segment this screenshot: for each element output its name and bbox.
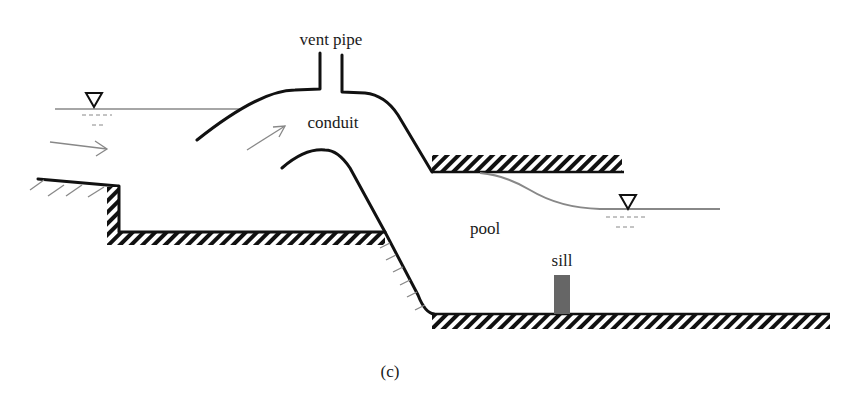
upstream-floor-hatch (107, 232, 385, 245)
water-level-triangle-icon (86, 93, 102, 107)
upstream-water-surface (55, 93, 242, 125)
vent-pipe-label: vent pipe (300, 30, 363, 49)
flow-arrow-conduit-icon (247, 126, 285, 150)
pool-label: pool (470, 219, 501, 238)
conduit-upper-wall-left (197, 53, 320, 140)
figure-caption: (c) (381, 362, 400, 381)
sill-label: sill (552, 251, 573, 270)
hydraulic-conduit-diagram: vent pipe conduit pool sill (c) (0, 0, 859, 404)
conduit-label: conduit (308, 113, 359, 132)
outlet-roof-hatch (432, 155, 622, 171)
downstream-floor-hatch (432, 315, 830, 329)
water-level-triangle-icon (620, 195, 636, 209)
flow-arrow-icon (50, 141, 107, 156)
downstream-water-surface (480, 173, 720, 227)
upstream-ground (30, 179, 118, 197)
slope-ground-hatch (380, 243, 425, 310)
sill-block (554, 275, 570, 314)
upstream-floor (119, 186, 385, 232)
